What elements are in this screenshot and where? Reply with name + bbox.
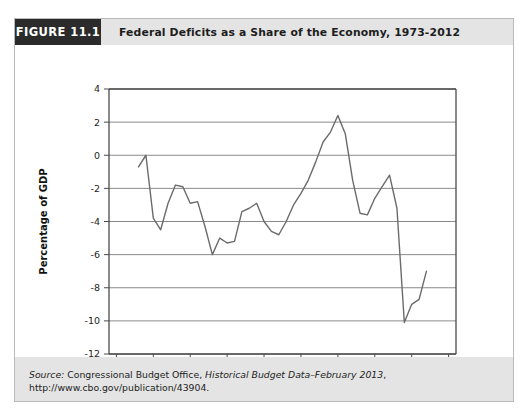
deficit-series-line [139,116,427,323]
chart-plot-area: 420-2-4-6-8-10-12 1970197519801985199019… [15,45,513,359]
svg-text:-6: -6 [91,249,100,260]
svg-text:4: 4 [94,83,100,94]
source-organization: Congressional Budget Office, [64,369,205,380]
y-axis-title: Percentage of GDP [38,168,49,274]
figure-title: Federal Deficits as a Share of the Econo… [119,26,460,39]
figure-card: FIGURE 11.1 Federal Deficits as a Share … [14,18,514,402]
source-publication: Historical Budget Data–February 2013 [205,369,383,380]
svg-text:-2: -2 [91,183,100,194]
figure-number-badge: FIGURE 11.1 [15,19,101,45]
svg-text:-10: -10 [84,315,100,326]
figure-source-footer: Source: Congressional Budget Office, His… [15,357,513,401]
figure-header: FIGURE 11.1 Federal Deficits as a Share … [15,19,513,45]
svg-text:0: 0 [94,150,100,161]
y-axis-ticks [104,89,109,354]
line-chart: 420-2-4-6-8-10-12 1970197519801985199019… [15,45,513,359]
svg-text:-4: -4 [91,216,100,227]
y-axis-tick-labels: 420-2-4-6-8-10-12 [84,83,100,359]
source-citation: Source: Congressional Budget Office, His… [29,368,499,395]
svg-text:-8: -8 [91,282,100,293]
svg-text:2: 2 [94,117,100,128]
source-label: Source: [29,369,64,380]
